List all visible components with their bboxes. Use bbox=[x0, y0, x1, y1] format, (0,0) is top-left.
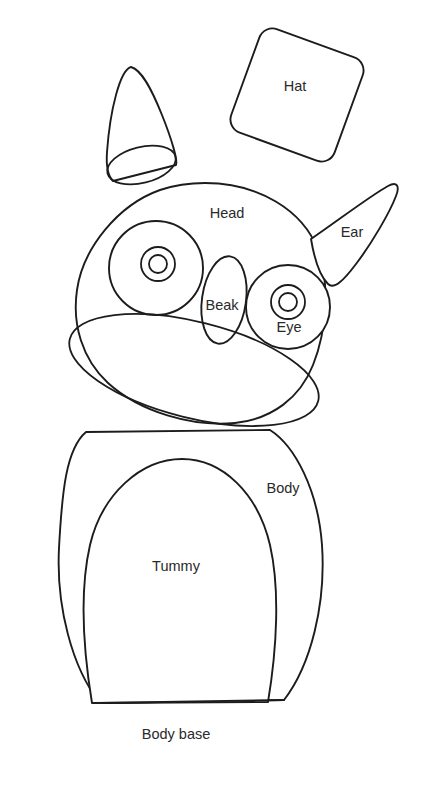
pattern-sheet: Hat Head Ear Eye Beak bbox=[0, 0, 421, 785]
body-base-piece[interactable]: Body base bbox=[100, 700, 284, 742]
eye-right-piece[interactable]: Eye bbox=[246, 265, 330, 349]
hat-outline bbox=[227, 25, 368, 166]
tummy-piece[interactable]: Tummy bbox=[84, 459, 276, 703]
ear-label: Ear bbox=[341, 224, 364, 240]
eye-label: Eye bbox=[277, 319, 302, 335]
hat-label: Hat bbox=[284, 78, 307, 94]
body-label: Body bbox=[266, 480, 300, 496]
beak-label: Beak bbox=[205, 297, 239, 313]
head-label: Head bbox=[210, 205, 245, 221]
tummy-label: Tummy bbox=[152, 558, 201, 574]
ear-piece[interactable]: Ear bbox=[311, 184, 398, 286]
eye-left-piece[interactable] bbox=[109, 221, 203, 315]
tummy-outline bbox=[84, 459, 276, 703]
cone-piece[interactable] bbox=[103, 67, 180, 191]
body-base-label: Body base bbox=[142, 726, 211, 742]
cone-body bbox=[107, 67, 177, 181]
hat-piece[interactable]: Hat bbox=[227, 25, 368, 166]
pattern-drawing-canvas: Hat Head Ear Eye Beak bbox=[0, 0, 421, 785]
eye-right-outer-circle bbox=[246, 265, 330, 349]
eye-left-outer-circle bbox=[109, 221, 203, 315]
